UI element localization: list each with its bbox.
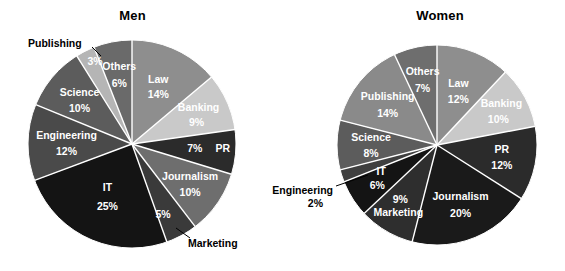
pie-label-pct-pr: 12%: [491, 159, 513, 171]
pie-label-pct-it: 6%: [370, 179, 386, 191]
pie-label-pct-engineering: 2%: [308, 197, 324, 209]
pie-label-pct-others: 7%: [415, 82, 431, 94]
pie-label-pct-journalism: 20%: [450, 207, 472, 219]
pie-label-name-publishing: Publishing: [361, 90, 415, 102]
pie-label-name-banking: Banking: [481, 97, 522, 109]
pie-label-name-science: Science: [351, 131, 391, 143]
pie-label-name-marketing: Marketing: [374, 206, 424, 218]
women-pie-chart: Law12%Banking10%PR12%Journalism20%Market…: [0, 0, 565, 271]
pie-label-name-it: IT: [377, 165, 387, 177]
pie-label-pct-publishing: 14%: [377, 107, 399, 119]
pie-label-name-pr: PR: [495, 143, 510, 155]
pie-label-pct-law: 12%: [448, 93, 470, 105]
pie-label-name-others: Others: [406, 65, 440, 77]
pie-label-pct-banking: 10%: [488, 113, 510, 125]
pie-label-pct-science: 8%: [363, 147, 379, 159]
pie-label-name-law: Law: [448, 77, 469, 89]
figure-canvas: Men Women Law14%Banking9%PR7%Journalism1…: [0, 0, 565, 271]
pie-label-name-journalism: Journalism: [433, 190, 489, 202]
pie-label-engineering: Engineering2%: [272, 184, 333, 209]
pie-label-name-engineering: Engineering: [272, 184, 333, 196]
pie-label-pct-marketing: 9%: [393, 193, 409, 205]
